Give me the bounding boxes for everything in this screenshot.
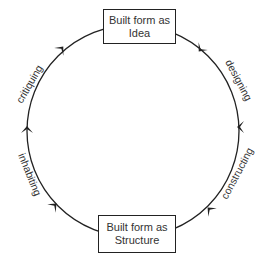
cycle-ring [27, 25, 239, 237]
node-label-line2: Structure [115, 234, 160, 247]
arrowhead-icon [203, 203, 216, 216]
node-label-line1: Built form as [106, 221, 167, 234]
node-built-form-idea: Built form as Idea [103, 9, 176, 44]
node-label-line1: Built form as [109, 14, 170, 27]
node-label-line2: Idea [129, 27, 150, 40]
edge-label-critiquing: critiquing [13, 62, 44, 105]
edge-label-inhabiting: inhabiting [16, 151, 44, 197]
node-built-form-structure: Built form as Structure [98, 215, 176, 253]
edge-label-designing: designing [223, 57, 255, 102]
